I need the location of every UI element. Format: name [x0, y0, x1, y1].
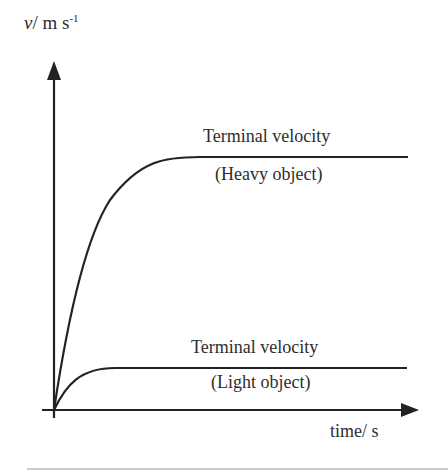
x-axis-label: time/ s	[330, 421, 379, 442]
light-terminal-velocity-label: Terminal velocity	[191, 337, 318, 358]
y-axis-arrow-icon	[47, 61, 61, 80]
y-axis-label: v/ m s-1	[24, 12, 79, 34]
light-object-label: (Light object)	[211, 372, 310, 393]
heavy-object-label: (Heavy object)	[215, 164, 322, 185]
heavy-terminal-velocity-label: Terminal velocity	[203, 126, 330, 147]
x-axis-arrow-icon	[401, 403, 419, 417]
velocity-time-diagram	[0, 0, 448, 470]
